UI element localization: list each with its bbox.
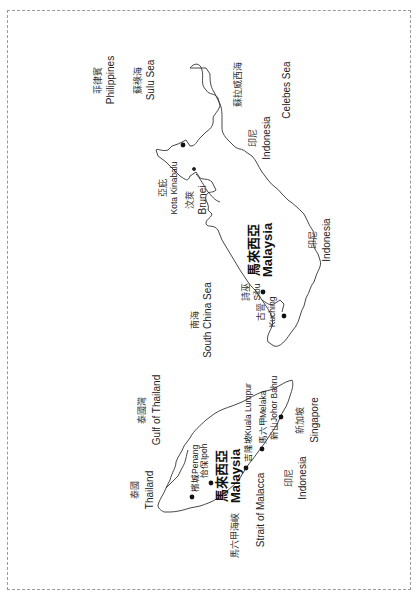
label-singapore: 新加坡 Singapore (294, 397, 320, 443)
dot-penang (190, 495, 195, 500)
svg-text:馬來西亞: 馬來西亞 (214, 450, 229, 502)
svg-text:Celebes Sea: Celebes Sea (281, 61, 292, 119)
svg-text:Gulf of Thailand: Gulf of Thailand (151, 375, 162, 445)
label-kota-kinabalu: 亞庇 Kota Kinabalu (157, 161, 179, 214)
svg-text:蘇祿海: 蘇祿海 (132, 67, 143, 94)
svg-text:Ipoh: Ipoh (199, 443, 209, 460)
svg-text:亞庇: 亞庇 (157, 179, 168, 197)
dot-brunei (193, 168, 196, 171)
label-johor-bahru: 新山 Johor Bahru (269, 375, 279, 440)
svg-text:馬六甲海峽: 馬六甲海峽 (229, 513, 240, 558)
svg-text:印尼: 印尼 (307, 231, 318, 249)
label-indonesia-north: 印尼 Indonesia (247, 116, 272, 160)
svg-text:古晉: 古晉 (255, 303, 266, 321)
svg-text:Strait of Malacca: Strait of Malacca (255, 472, 266, 547)
svg-text:印尼: 印尼 (247, 129, 258, 147)
label-malaysia-east: 馬來西亞 Malaysia (246, 222, 275, 277)
svg-text:Kuala Lumpur: Kuala Lumpur (243, 383, 253, 436)
label-sulu-sea: 蘇祿海 Sulu Sea (132, 59, 156, 100)
svg-text:Johor Bahru: Johor Bahru (269, 375, 279, 422)
label-malaysia-west: 馬來西亞 Malaysia (214, 448, 243, 503)
svg-text:Brunei: Brunei (197, 186, 208, 215)
svg-text:Malaysia: Malaysia (228, 448, 243, 503)
svg-text:Philippines: Philippines (105, 56, 116, 104)
label-gulf-of-thailand: 泰國灣 Gulf of Thailand (136, 375, 162, 445)
label-melaka: 馬六甲 Melaka (258, 390, 268, 444)
svg-text:怡保: 怡保 (199, 460, 209, 478)
dot-johor-bahru (279, 415, 284, 420)
label-indonesia-south: 印尼 Indonesia (283, 456, 308, 500)
label-kuala-lumpur: 吉隆坡 Kuala Lumpur (243, 383, 253, 462)
label-south-china-sea: 南海 South China Sea (189, 282, 213, 358)
label-philippines: 菲律賓 Philippines (92, 56, 116, 104)
svg-text:Indonesia: Indonesia (261, 116, 272, 160)
label-thailand: 泰國 Thailand (129, 471, 155, 509)
svg-text:詩巫: 詩巫 (240, 283, 251, 301)
dot-melaka (260, 447, 265, 452)
label-ipoh: 怡保 Ipoh (199, 443, 209, 478)
svg-text:Indonesia: Indonesia (297, 456, 308, 500)
dot-kuching (282, 314, 287, 319)
svg-text:吉隆坡: 吉隆坡 (243, 435, 253, 462)
svg-text:泰國: 泰國 (129, 481, 140, 499)
svg-text:泰國灣: 泰國灣 (136, 397, 147, 424)
svg-text:Sibu: Sibu (252, 283, 262, 300)
svg-text:馬來西亞: 馬來西亞 (246, 224, 261, 276)
svg-text:Kuching: Kuching (267, 296, 277, 327)
svg-text:南海: 南海 (189, 311, 200, 329)
svg-text:Sulu Sea: Sulu Sea (145, 59, 156, 100)
svg-text:Thailand: Thailand (144, 471, 155, 509)
svg-text:菲律賓: 菲律賓 (92, 67, 103, 94)
svg-text:印尼: 印尼 (283, 469, 294, 487)
svg-text:Singapore: Singapore (309, 397, 320, 443)
svg-text:Malaysia: Malaysia (260, 222, 275, 277)
svg-text:South China Sea: South China Sea (202, 282, 213, 358)
dot-kuala-lumpur (244, 466, 249, 471)
malaysia-map: 菲律賓 Philippines 蘇祿海 Sulu Sea 蘇拉威西海 Celeb… (0, 0, 418, 600)
svg-text:馬六甲: 馬六甲 (258, 417, 268, 444)
svg-text:Melaka: Melaka (258, 390, 268, 418)
svg-text:Indonesia: Indonesia (321, 218, 332, 262)
svg-text:Kota Kinabalu: Kota Kinabalu (169, 161, 179, 214)
label-celebes-sea: 蘇拉威西海 Celebes Sea (232, 61, 292, 119)
svg-text:汶萊: 汶萊 (184, 191, 195, 209)
dot-kota-kinabalu (181, 143, 186, 148)
svg-text:新加坡: 新加坡 (294, 407, 305, 434)
label-indonesia-mid: 印尼 Indonesia (307, 218, 332, 262)
label-brunei: 汶萊 Brunei (184, 186, 208, 215)
svg-text:新山: 新山 (269, 422, 279, 440)
svg-text:蘇拉威西海: 蘇拉威西海 (232, 62, 243, 107)
dot-ipoh (209, 481, 214, 486)
